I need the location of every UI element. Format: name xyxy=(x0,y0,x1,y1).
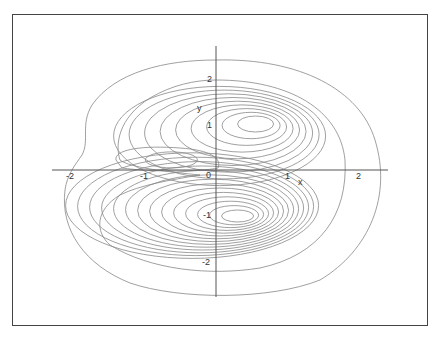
x-tick-label: 0 xyxy=(206,170,211,180)
y-tick-label: -2 xyxy=(202,257,210,267)
x-tick-label: -1 xyxy=(140,171,148,181)
axes xyxy=(52,46,388,297)
x-tick-label: -2 xyxy=(66,171,74,181)
y-tick-label: -1 xyxy=(203,210,211,220)
contour-line xyxy=(207,109,287,146)
y-axis-label: y xyxy=(197,103,202,113)
contour-line xyxy=(238,116,274,132)
x-tick-label: 2 xyxy=(356,171,361,181)
contour-line xyxy=(64,60,380,295)
contour-line xyxy=(222,210,254,222)
x-axis-label: x xyxy=(298,177,303,187)
contour-line xyxy=(145,152,197,168)
y-tick-label: 1 xyxy=(207,120,212,130)
contour-line xyxy=(176,101,300,159)
contour-lines xyxy=(64,60,380,295)
contour-line xyxy=(150,184,284,239)
contour-plot: -2 -1 0 1 2 2 1 -1 -2 x y xyxy=(0,0,439,337)
y-tick-label: 2 xyxy=(207,74,212,84)
contour-line xyxy=(162,188,279,236)
x-tick-label: 1 xyxy=(285,171,290,181)
